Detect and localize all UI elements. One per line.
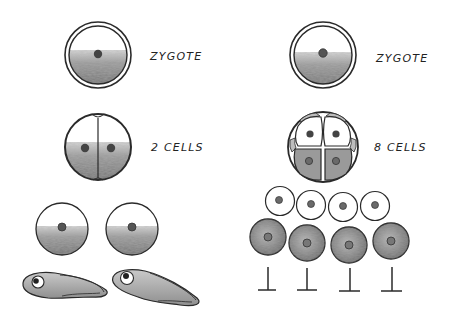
nucleus: [332, 157, 339, 164]
tadpole-pupil: [33, 278, 39, 284]
nucleus: [340, 203, 347, 210]
separated-cell-2: [106, 203, 158, 256]
left-zygote: [65, 22, 131, 88]
nucleus: [303, 239, 311, 247]
left-two-cell-stage: [64, 114, 132, 182]
termination-symbols: [258, 267, 402, 291]
nucleus: [276, 197, 283, 204]
tadpole-2: [113, 270, 199, 306]
right-zygote: [290, 22, 356, 88]
tadpole-pupil: [123, 273, 129, 279]
nucleus: [128, 223, 136, 231]
right-eight-cell-stage: [288, 112, 358, 182]
separated-cell-1: [36, 203, 88, 256]
termination-symbol: [258, 267, 276, 290]
nucleus: [58, 223, 66, 231]
tadpole-1: [23, 272, 107, 298]
separated-light-cells: [266, 187, 390, 222]
label-right-zygote: ZYGOTE: [375, 52, 428, 65]
vegetal-cell: [325, 149, 352, 180]
nucleus: [332, 130, 339, 137]
nucleus: [387, 237, 395, 245]
label-left-zygote: ZYGOTE: [149, 50, 202, 63]
nucleus: [264, 233, 272, 241]
nucleus: [81, 144, 89, 152]
nucleus: [107, 144, 115, 152]
termination-symbol: [381, 267, 402, 291]
label-two-cells: 2 CELLS: [151, 141, 204, 154]
termination-symbol: [339, 268, 360, 291]
nucleus: [305, 157, 312, 164]
nucleus: [306, 130, 313, 137]
label-eight-cells: 8 CELLS: [374, 141, 427, 154]
embryo-diagram: ZYGOTE 2 CELLS: [0, 0, 451, 318]
nucleus: [319, 49, 327, 57]
separated-dark-cells: [250, 219, 409, 263]
nucleus: [308, 201, 315, 208]
nucleus: [94, 50, 102, 58]
termination-symbol: [297, 268, 317, 290]
nucleus: [372, 202, 379, 209]
nucleus: [345, 241, 353, 249]
